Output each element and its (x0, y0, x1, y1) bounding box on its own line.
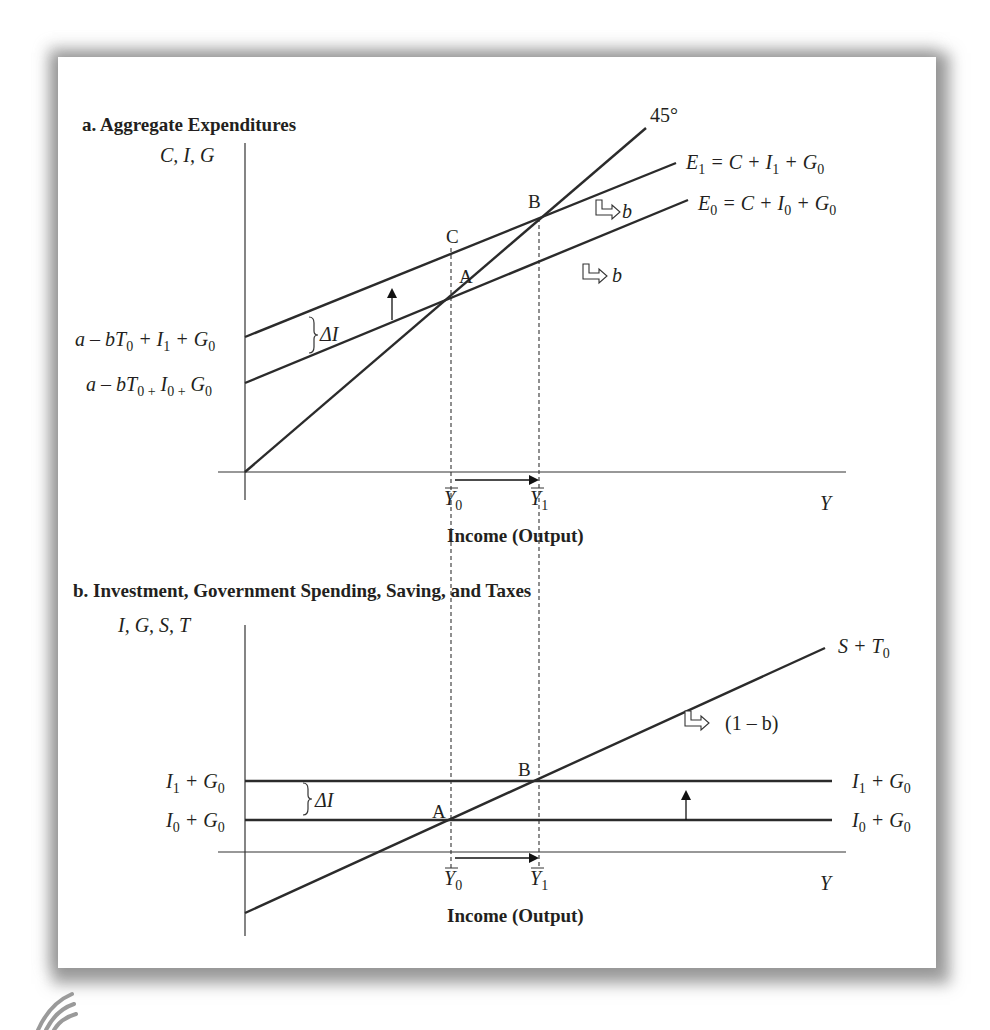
point-b-label: B (528, 191, 541, 212)
svg-text:b: b (612, 264, 622, 286)
svg-text:b: b (622, 200, 632, 222)
label-i0-g0-right: I0 + G0 (851, 809, 911, 835)
point-a-label: A (459, 266, 473, 287)
panel-a: a. Aggregate Expenditures C, I, G Y Inco… (75, 104, 846, 868)
line-e1 (245, 163, 676, 337)
delta-i-label-b: ΔI (314, 789, 335, 811)
label-i0-g0-left: I0 + G0 (165, 809, 225, 835)
label-i1-g0-right: I1 + G0 (851, 770, 911, 796)
label-i1-g0-left: I1 + G0 (165, 770, 225, 796)
panel-a-title: a. Aggregate Expenditures (82, 114, 296, 135)
publisher-swoosh-logo-icon (28, 990, 88, 1030)
label-y0-b: Y0 (444, 867, 462, 893)
panel-b-x-title: Income (Output) (447, 905, 584, 927)
label-e0: E0 = C + I0 + G0 (697, 192, 836, 218)
panel-b: b. Investment, Government Spending, Savi… (73, 580, 911, 936)
panel-a-x-title: Income (Output) (447, 525, 584, 547)
label-y0-a: Y0 (444, 487, 462, 513)
delta-i-brace-b-icon (303, 783, 312, 815)
point-b-label-b: B (518, 759, 531, 780)
svg-text:Y0: Y0 (444, 487, 462, 513)
delta-i-brace-icon (309, 317, 318, 353)
label-45-degree: 45° (650, 104, 678, 126)
panel-b-x-label: Y (820, 872, 833, 894)
point-c-label: C (446, 226, 459, 247)
label-e0-intercept: a – bT0 + I0 + G0 (86, 373, 212, 399)
svg-text:Y1: Y1 (530, 867, 548, 893)
panel-b-y-label: I, G, S, T (117, 614, 192, 636)
slope-1-minus-b-icon: (1 – b) (685, 711, 778, 735)
svg-text:Y0: Y0 (444, 867, 462, 893)
slope-b-icon-e0: b (583, 264, 622, 286)
line-e0 (245, 200, 688, 383)
point-a-label-b: A (432, 801, 446, 822)
panel-a-y-label: C, I, G (160, 144, 215, 166)
svg-text:(1 – b): (1 – b) (725, 712, 778, 735)
label-y1-a: Y1 (530, 487, 548, 513)
panel-a-x-label: Y (820, 492, 833, 514)
label-y1-b: Y1 (530, 867, 548, 893)
label-s-plus-t0: S + T0 (838, 635, 890, 661)
panel-b-title: b. Investment, Government Spending, Savi… (73, 580, 531, 601)
label-e1: E1 = C + I1 + G0 (685, 151, 824, 177)
delta-i-label: ΔI (319, 323, 340, 345)
label-e1-intercept: a – bT0 + I1 + G0 (75, 328, 215, 354)
svg-text:Y1: Y1 (530, 487, 548, 513)
slope-b-icon-e1: b (596, 200, 632, 222)
